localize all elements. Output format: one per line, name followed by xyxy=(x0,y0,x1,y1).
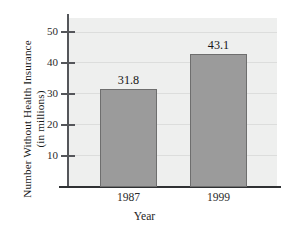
bar-chart-figure: Number Without Health Insurance (in mill… xyxy=(0,0,289,230)
x-tick-label-1987: 1987 xyxy=(94,191,164,204)
y-tick-label-20: 20 xyxy=(32,118,58,130)
x-tick-label-1999: 1999 xyxy=(184,191,254,204)
y-tick-label-40: 40 xyxy=(32,56,58,68)
bar-1999[interactable] xyxy=(190,54,247,187)
bar-1987[interactable] xyxy=(100,89,157,187)
y-tick-40 xyxy=(61,62,75,64)
y-tick-label-50: 50 xyxy=(32,25,58,37)
x-axis-title: Year xyxy=(0,210,289,223)
y-tick-10 xyxy=(61,155,75,157)
y-tick-50 xyxy=(61,31,75,33)
y-tick-30 xyxy=(61,93,75,95)
bar-value-1999: 43.1 xyxy=(184,38,254,53)
y-tick-20 xyxy=(61,124,75,126)
y-tick-label-30: 30 xyxy=(32,87,58,99)
y-axis-line xyxy=(67,14,69,188)
y-tick-label-10: 10 xyxy=(32,149,58,161)
x-axis-line xyxy=(59,186,281,188)
gridline-50 xyxy=(69,32,277,33)
bar-value-1987: 31.8 xyxy=(94,73,164,88)
